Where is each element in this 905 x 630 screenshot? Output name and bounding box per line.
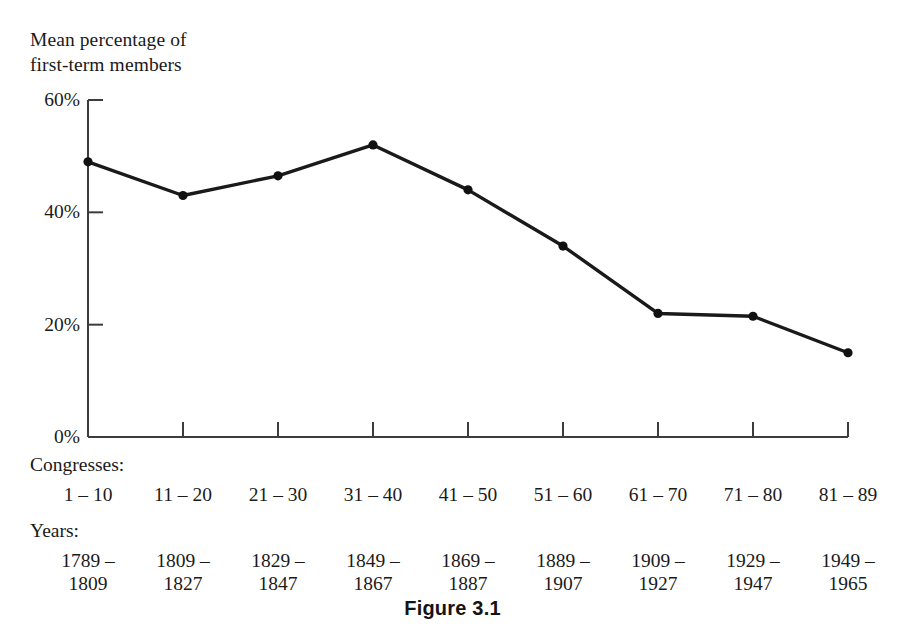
y-tick-label-0: 0% [10,427,80,447]
figure-3-1: Mean percentage of first-term members 60… [0,0,905,630]
chart-axes [88,100,848,437]
line-chart-plot [0,0,905,630]
data-point-1 [178,191,187,200]
y-tick-label-20: 20% [10,315,80,335]
years-label-start-5: 1889 – [536,550,590,571]
years-label-start-3: 1849 – [346,550,400,571]
congress-label-8: 81 – 89 [783,483,905,506]
data-point-8 [843,348,852,357]
data-point-2 [273,171,282,180]
years-label-start-8: 1949 – [821,550,875,571]
years-label-8: 1949 –1965 [783,549,905,595]
congresses-heading: Congresses: [30,455,124,475]
years-heading: Years: [30,521,79,541]
years-label-start-4: 1869 – [441,550,495,571]
y-axis-ticks [88,100,103,325]
data-point-markers [83,140,852,357]
data-point-3 [368,140,377,149]
data-point-6 [653,309,662,318]
data-point-7 [748,312,757,321]
years-label-start-2: 1829 – [251,550,305,571]
years-label-start-0: 1789 – [61,550,115,571]
years-label-start-6: 1909 – [631,550,685,571]
y-tick-label-40: 40% [10,202,80,222]
x-axis-ticks [88,422,848,437]
data-point-4 [463,185,472,194]
data-line [88,145,848,353]
figure-caption: Figure 3.1 [0,596,905,620]
y-tick-label-60: 60% [10,90,80,110]
years-label-end-8: 1965 [783,572,905,595]
years-label-start-1: 1809 – [156,550,210,571]
data-point-5 [558,241,567,250]
years-label-start-7: 1929 – [726,550,780,571]
data-point-0 [83,157,92,166]
